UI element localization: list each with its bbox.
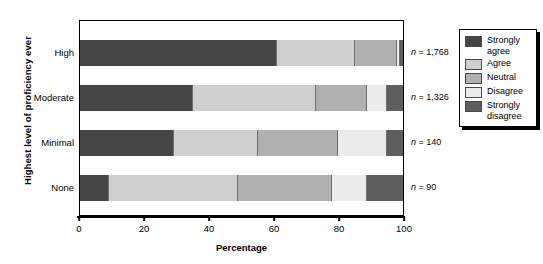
y-tick-label-minimal: Minimal	[18, 137, 74, 148]
bar-segment-strongly-disagree	[387, 85, 403, 111]
bar-segment-strongly-agree	[80, 85, 193, 111]
x-axis-line	[77, 216, 405, 218]
bar-minimal	[80, 130, 403, 156]
legend-item-strongly-agree[interactable]: Strongly agree	[465, 35, 532, 56]
n-label-none: n = 90	[411, 182, 436, 192]
legend-item-agree[interactable]: Agree	[465, 58, 532, 70]
x-tick-label-40: 40	[204, 223, 215, 234]
bars-container	[80, 21, 403, 215]
y-tick-label-moderate: Moderate	[18, 92, 74, 103]
bar-segment-disagree	[338, 130, 386, 156]
x-axis-title: Percentage	[79, 242, 404, 253]
legend-swatch-disagree	[465, 87, 482, 98]
x-tick-label-100: 100	[396, 223, 412, 234]
y-tick-label-none: None	[18, 182, 74, 193]
x-tick-label-0: 0	[76, 223, 81, 234]
x-tick-20	[143, 216, 145, 221]
bar-segment-strongly-agree	[80, 130, 174, 156]
bar-high	[80, 40, 403, 66]
bar-segment-neutral	[238, 175, 332, 201]
legend-label-neutral: Neutral	[487, 72, 516, 83]
legend-item-disagree[interactable]: Disagree	[465, 86, 532, 98]
legend-label-strongly-agree: Strongly agree	[487, 35, 520, 56]
bar-segment-strongly-disagree	[400, 40, 403, 66]
x-axis: 020406080100	[79, 216, 404, 217]
x-tick-40	[208, 216, 210, 221]
plot-area	[79, 20, 404, 216]
legend-item-neutral[interactable]: Neutral	[465, 72, 532, 84]
bar-segment-agree	[174, 130, 258, 156]
bar-segment-strongly-disagree	[367, 175, 403, 201]
x-tick-label-80: 80	[334, 223, 345, 234]
bar-segment-strongly-agree	[80, 175, 109, 201]
x-tick-label-20: 20	[139, 223, 150, 234]
legend-label-agree: Agree	[487, 58, 511, 69]
x-tick-80	[338, 216, 340, 221]
bar-segment-strongly-disagree	[387, 130, 403, 156]
n-label-moderate: n = 1,326	[411, 92, 449, 102]
x-tick-60	[273, 216, 275, 221]
legend-swatch-strongly-disagree	[465, 101, 482, 112]
y-axis-tick-labels: HighModerateMinimalNone	[18, 20, 74, 216]
legend-label-strongly-disagree: Strongly disagree	[487, 100, 522, 121]
legend-label-disagree: Disagree	[487, 86, 523, 97]
bar-segment-agree	[277, 40, 355, 66]
x-tick-label-60: 60	[269, 223, 280, 234]
legend-swatch-strongly-agree	[465, 36, 482, 47]
bar-segment-agree	[193, 85, 316, 111]
bar-segment-neutral	[258, 130, 339, 156]
bar-segment-disagree	[332, 175, 368, 201]
legend-item-strongly-disagree[interactable]: Strongly disagree	[465, 100, 532, 121]
x-tick-100	[403, 216, 405, 221]
bar-none	[80, 175, 403, 201]
bar-segment-strongly-agree	[80, 40, 277, 66]
legend: Strongly agreeAgreeNeutralDisagreeStrong…	[459, 29, 537, 127]
stacked-bar-chart: Highest level of proficiency ever HighMo…	[0, 0, 543, 264]
bar-segment-agree	[109, 175, 238, 201]
legend-swatch-agree	[465, 59, 482, 70]
bar-segment-disagree	[367, 85, 386, 111]
bar-segment-neutral	[316, 85, 368, 111]
legend-swatch-neutral	[465, 73, 482, 84]
n-label-high: n = 1,768	[411, 47, 449, 57]
bar-moderate	[80, 85, 403, 111]
bar-segment-neutral	[355, 40, 397, 66]
y-tick-label-high: High	[18, 47, 74, 58]
x-tick-0	[78, 216, 80, 221]
n-label-minimal: n = 140	[411, 137, 441, 147]
